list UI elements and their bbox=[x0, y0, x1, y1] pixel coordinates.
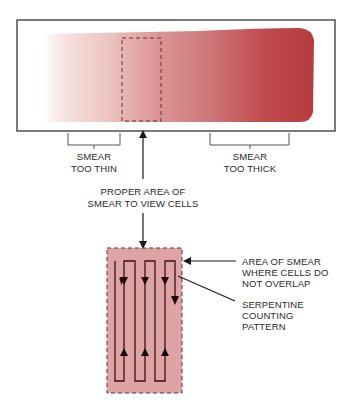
detail-box bbox=[107, 248, 182, 393]
smear-diagram: SMEAR TOO THIN SMEAR TOO THICK PROPER AR… bbox=[0, 0, 348, 407]
bracket-too-thick bbox=[210, 133, 289, 149]
label-serpentine-3: PATTERN bbox=[242, 321, 286, 332]
label-no-overlap-2: WHERE CELLS DO bbox=[242, 267, 328, 278]
slide bbox=[17, 20, 335, 131]
label-proper-area-1: PROPER AREA OF bbox=[101, 186, 186, 197]
bracket-too-thin bbox=[68, 133, 120, 149]
label-too-thick-2: TOO THICK bbox=[224, 163, 277, 174]
label-too-thick-1: SMEAR bbox=[233, 151, 267, 162]
pointer-serpentine bbox=[178, 276, 235, 301]
label-serpentine-2: COUNTING bbox=[242, 310, 293, 321]
label-no-overlap-3: NOT OVERLAP bbox=[242, 278, 311, 289]
label-proper-area-2: SMEAR TO VIEW CELLS bbox=[88, 198, 199, 209]
label-no-overlap-1: AREA OF SMEAR bbox=[242, 256, 321, 267]
label-too-thin-1: SMEAR bbox=[77, 151, 111, 162]
label-serpentine-1: SERPENTINE bbox=[242, 299, 304, 310]
blood-smear bbox=[42, 28, 314, 122]
label-too-thin-2: TOO THIN bbox=[71, 163, 117, 174]
